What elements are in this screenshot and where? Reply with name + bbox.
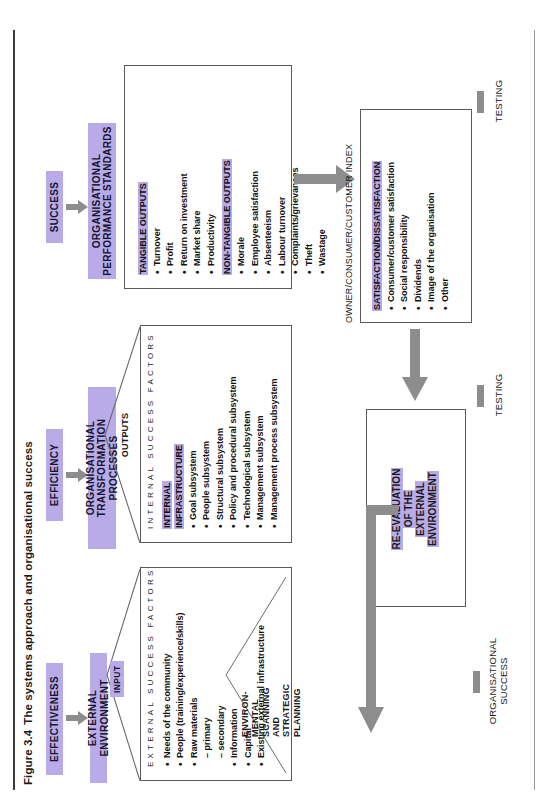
- reevaluation-line: EXTERNAL: [415, 481, 427, 537]
- list-item: People (training/experience/skills): [175, 577, 187, 758]
- org-success-line: SUCCESS: [499, 617, 510, 745]
- list-item: Absenteeism: [263, 75, 275, 266]
- page-rule-top: [13, 30, 15, 790]
- transformation-items: Goal subsystem People subsystem Structur…: [188, 333, 281, 529]
- list-item: Return on investment: [179, 75, 191, 266]
- internal-infrastructure-header: INTERNAL INFRASTRUCTURE: [162, 444, 186, 529]
- stage-transformation-line1: ORGANISATIONAL: [85, 421, 96, 516]
- label-testing-mid: TESTING: [494, 349, 505, 441]
- roof-label-line: AND: [271, 639, 281, 737]
- roof-label-line: MENTAL: [250, 639, 260, 737]
- list-item: Productivity: [206, 75, 218, 266]
- satisfaction-header: SATISFACTION/DISSATISFACTION: [372, 161, 384, 311]
- internal-success-factors-axis: INTERNAL SUCCESS FACTORS: [146, 332, 155, 529]
- list-item: Goal subsystem: [188, 333, 200, 520]
- criteria-efficiency: EFFICIENCY: [46, 429, 63, 521]
- arrow-testing-mid-marker: [474, 385, 486, 407]
- label-testing-right: TESTING: [494, 55, 505, 147]
- arrow-testing-right-marker: [474, 91, 486, 113]
- list-item: Management subsystem: [255, 333, 267, 520]
- index-list: SATISFACTION/DISSATISFACTION Consumer/cu…: [372, 119, 453, 311]
- label-organisational-success: ORGANISATIONAL SUCCESS: [488, 617, 510, 745]
- list-item: Needs of the community: [162, 577, 174, 758]
- arrow-index-to-reevaluation: [402, 329, 428, 401]
- arrow-effectiveness-down: [66, 711, 88, 725]
- page-rule-bottom: [534, 30, 535, 790]
- list-item: Morale: [236, 75, 248, 266]
- stage-performance-line2: PERFORMANCE STANDARDS: [102, 126, 113, 275]
- header-text: SATISFACTION/DISSATISFACTION: [372, 161, 382, 311]
- stage-external-environment: EXTERNAL ENVIRONMENT: [90, 653, 107, 783]
- list-item: Management process subsystem: [269, 333, 281, 520]
- roof-label-line: SCANNING: [261, 639, 271, 737]
- list-item: – primary: [202, 577, 214, 758]
- arrow-reevaluation-to-external: [294, 505, 398, 733]
- header-line: INTERNAL: [162, 482, 172, 530]
- reevaluation-line: ENVIRONMENT: [427, 471, 439, 547]
- diagram-canvas: EFFECTIVENESS EFFICIENCY SUCCESS EXTERNA…: [28, 21, 520, 789]
- criteria-effectiveness: EFFECTIVENESS: [46, 663, 63, 775]
- list-item: Dividends: [413, 119, 425, 302]
- index-items: Consumer/customer satisfaction Social re…: [386, 119, 452, 311]
- stage-performance-standards: ORGANISATIONAL PERFORMANCE STANDARDS: [88, 123, 116, 279]
- criteria-success: SUCCESS: [46, 171, 63, 243]
- stage-performance-line1: ORGANISATIONAL: [91, 154, 102, 249]
- list-item: Market share: [192, 75, 204, 266]
- nontangible-outputs-header: NON-TANGIBLE OUTPUTS: [222, 159, 234, 275]
- roof-label-line: STRATEGIC: [281, 639, 291, 737]
- flow-label-input: INPUT: [110, 662, 124, 698]
- list-item: Consumer/customer satisfaction: [386, 119, 398, 302]
- list-item: Technological subsystem: [242, 333, 254, 520]
- list-item: Turnover: [152, 75, 164, 266]
- list-item: Social responsibility: [399, 119, 411, 302]
- roof-label-line: ENVIRON-: [240, 639, 250, 737]
- list-item: Labour turnover: [277, 75, 289, 266]
- list-item: Image of the organisation: [426, 119, 438, 302]
- tangible-outputs-header: TANGIBLE OUTPUTS: [138, 182, 150, 275]
- list-item: Employee satisfaction: [250, 75, 262, 266]
- list-item: Profit: [165, 75, 177, 266]
- tangible-output-items: Turnover Profit Return on investment Mar…: [152, 75, 218, 275]
- header-text: NON-TANGIBLE OUTPUTS: [222, 159, 232, 275]
- list-item: Other: [440, 119, 452, 302]
- environmental-scanning-label: ENVIRON- MENTAL SCANNING AND STRATEGIC P…: [240, 639, 302, 737]
- arrow-organisational-success-marker: [470, 671, 482, 693]
- list-item: Policy and procedural subsystem: [228, 333, 240, 520]
- index-title: OWNER/CONSUMER/CUSTOMER INDEX: [344, 111, 354, 323]
- list-item: People subsystem: [201, 333, 213, 520]
- header-text: TANGIBLE OUTPUTS: [138, 182, 148, 275]
- transformation-list: INTERNAL INFRASTRUCTURE Goal subsystem P…: [162, 333, 282, 529]
- external-success-factors-axis: EXTERNAL SUCCESS FACTORS: [146, 568, 155, 768]
- flow-label-outputs: OUTPUTS: [120, 399, 130, 471]
- list-item: Raw materials: [189, 577, 201, 758]
- arrow-success-down: [66, 200, 88, 214]
- header-line: INFRASTRUCTURE: [174, 444, 184, 529]
- list-item: Structural subsystem: [215, 333, 227, 520]
- figure-page: Figure 3.4 The systems approach and orga…: [0, 0, 551, 810]
- reevaluation-line: OF THE: [403, 490, 415, 529]
